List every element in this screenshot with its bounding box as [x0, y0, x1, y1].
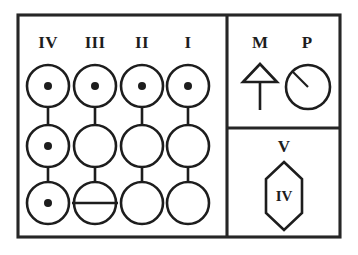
center-dot-icon — [138, 82, 146, 90]
column-label-i: I — [185, 33, 192, 52]
tooth-circle[interactable] — [121, 125, 163, 167]
column-group-ii — [121, 65, 163, 224]
center-dot-icon — [44, 142, 52, 150]
tooth-circle[interactable] — [121, 182, 163, 224]
column-label-ii: II — [135, 33, 149, 52]
column-label-iv: IV — [38, 33, 58, 52]
column-group-iv — [27, 65, 69, 224]
column-group-i — [167, 65, 209, 224]
quadrant-chart-svg: IV III II I — [0, 0, 358, 255]
center-dot-icon — [184, 82, 192, 90]
symbol-label-p: P — [302, 33, 312, 52]
column-group-iii — [72, 65, 118, 224]
up-arrow-icon — [243, 64, 277, 110]
tooth-circle[interactable] — [167, 125, 209, 167]
tooth-circle[interactable] — [74, 125, 116, 167]
column-label-iii: III — [85, 33, 106, 52]
gauge-icon — [286, 65, 330, 109]
symbol-label-v: V — [278, 137, 291, 156]
center-dot-icon — [91, 82, 99, 90]
center-dot-icon — [44, 199, 52, 207]
symbol-label-m: M — [252, 33, 268, 52]
tooth-circle[interactable] — [167, 182, 209, 224]
diagram-canvas: IV III II I — [0, 0, 358, 255]
hexagon-inner-label: IV — [276, 188, 293, 204]
center-dot-icon — [44, 82, 52, 90]
